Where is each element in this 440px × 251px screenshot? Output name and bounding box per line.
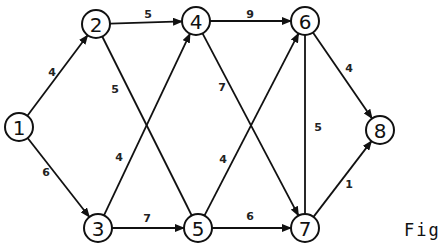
edge-weight-5-7: 6	[246, 210, 254, 223]
node-label: 6	[299, 10, 312, 34]
node-6: 6	[291, 7, 319, 35]
edge-weight-4-6: 9	[246, 8, 254, 21]
node-4: 4	[182, 7, 210, 35]
node-8: 8	[366, 116, 394, 144]
node-2: 2	[82, 10, 110, 38]
network-diagram: 4655479746541 12345678	[0, 0, 440, 251]
edge-7-8	[314, 141, 372, 217]
arrow-line	[28, 138, 90, 217]
node-label: 3	[92, 217, 105, 241]
node-3: 3	[84, 214, 112, 242]
arrow-line	[27, 35, 87, 116]
edge-weight-1-2: 4	[48, 66, 56, 79]
node-label: 2	[90, 13, 103, 37]
edge-weight-4-7: 7	[218, 81, 226, 94]
edge-1-3	[28, 138, 90, 217]
edge-weight-7-8: 1	[345, 178, 353, 191]
arrow-line	[110, 21, 182, 23]
edge-weight-labels: 4655479746541	[42, 8, 353, 225]
edge-weight-3-4: 4	[115, 151, 123, 164]
nodes-layer: 12345678	[5, 7, 394, 242]
edge-2-4	[110, 21, 182, 23]
figure-caption: Fig	[404, 220, 440, 240]
edge-weight-2-4: 5	[144, 8, 152, 21]
node-label: 4	[190, 10, 203, 34]
edge-1-2	[27, 35, 87, 116]
edge-weight-2-5: 5	[111, 83, 119, 96]
node-label: 8	[374, 119, 387, 143]
arrow-line	[313, 33, 372, 119]
node-label: 1	[13, 116, 26, 140]
node-7: 7	[291, 214, 319, 242]
edge-6-8	[313, 33, 372, 119]
node-label: 7	[299, 217, 312, 241]
edge-weight-6-7: 5	[314, 121, 322, 134]
node-1: 1	[5, 113, 33, 141]
edge-weight-5-6: 4	[219, 153, 227, 166]
node-5: 5	[184, 214, 212, 242]
edge-weight-3-5: 7	[143, 212, 151, 225]
node-label: 5	[192, 217, 205, 241]
edge-weight-1-3: 6	[42, 166, 50, 179]
arrow-line	[314, 141, 372, 217]
edge-weight-6-8: 4	[345, 62, 353, 75]
